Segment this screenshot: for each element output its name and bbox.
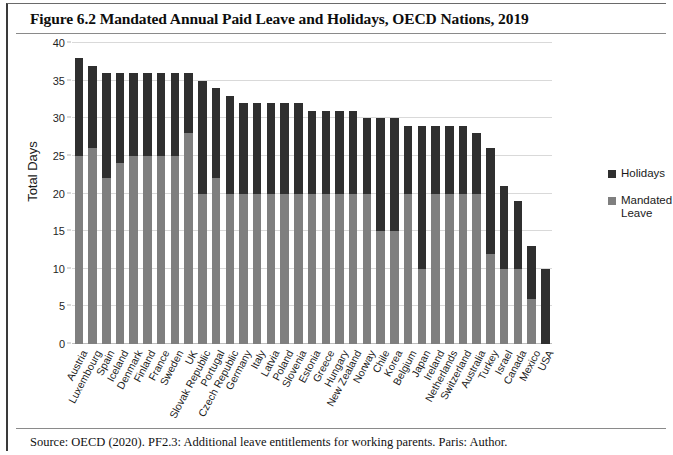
bar-segment-mandated-leave[interactable] <box>129 156 138 344</box>
bar-segment-mandated-leave[interactable] <box>445 194 454 344</box>
bar-segment-mandated-leave[interactable] <box>431 194 440 344</box>
bar-stack[interactable] <box>349 111 358 344</box>
bar-segment-holidays[interactable] <box>472 133 481 193</box>
bar-segment-holidays[interactable] <box>541 269 550 344</box>
legend-item[interactable]: Mandated Leave <box>608 194 673 220</box>
bar-segment-holidays[interactable] <box>116 73 125 163</box>
bar-stack[interactable] <box>157 73 166 344</box>
bar-segment-holidays[interactable] <box>486 148 495 253</box>
bar-segment-holidays[interactable] <box>253 103 262 193</box>
bar-segment-mandated-leave[interactable] <box>514 269 523 344</box>
bar-stack[interactable] <box>75 58 84 344</box>
bar-segment-holidays[interactable] <box>376 118 385 231</box>
bar-segment-mandated-leave[interactable] <box>363 194 372 344</box>
bar-segment-mandated-leave[interactable] <box>335 194 344 344</box>
bar-stack[interactable] <box>267 103 276 344</box>
bar-segment-mandated-leave[interactable] <box>157 156 166 344</box>
bar-stack[interactable] <box>184 73 193 344</box>
bar-stack[interactable] <box>431 126 440 344</box>
bar-stack[interactable] <box>472 133 481 344</box>
bar-segment-mandated-leave[interactable] <box>500 269 509 344</box>
bar-stack[interactable] <box>239 103 248 344</box>
bar-segment-holidays[interactable] <box>322 111 331 194</box>
bar-segment-mandated-leave[interactable] <box>198 194 207 345</box>
bar-segment-holidays[interactable] <box>102 73 111 178</box>
bar-segment-holidays[interactable] <box>390 118 399 231</box>
bar-segment-mandated-leave[interactable] <box>239 194 248 344</box>
bar-segment-holidays[interactable] <box>294 103 303 193</box>
bar-segment-mandated-leave[interactable] <box>143 156 152 344</box>
bar-segment-holidays[interactable] <box>459 126 468 194</box>
bar-segment-holidays[interactable] <box>363 118 372 193</box>
bar-stack[interactable] <box>226 96 235 344</box>
bar-stack[interactable] <box>527 246 536 344</box>
bar-segment-holidays[interactable] <box>431 126 440 194</box>
bar-segment-mandated-leave[interactable] <box>75 156 84 344</box>
bar-segment-holidays[interactable] <box>404 126 413 194</box>
bar-segment-holidays[interactable] <box>335 111 344 194</box>
legend-item[interactable]: Holidays <box>608 167 673 180</box>
bar-stack[interactable] <box>143 73 152 344</box>
bar-stack[interactable] <box>514 201 523 344</box>
bar-stack[interactable] <box>116 73 125 344</box>
bar-segment-mandated-leave[interactable] <box>418 269 427 344</box>
bar-stack[interactable] <box>253 103 262 344</box>
bar-segment-mandated-leave[interactable] <box>527 299 536 344</box>
bar-segment-mandated-leave[interactable] <box>171 156 180 344</box>
bar-stack[interactable] <box>102 73 111 344</box>
bar-segment-holidays[interactable] <box>527 246 536 299</box>
bar-segment-holidays[interactable] <box>418 126 427 269</box>
bar-segment-mandated-leave[interactable] <box>308 194 317 344</box>
bar-segment-holidays[interactable] <box>500 186 509 269</box>
bar-segment-mandated-leave[interactable] <box>390 231 399 344</box>
bar-stack[interactable] <box>322 111 331 344</box>
bar-stack[interactable] <box>445 126 454 344</box>
bar-stack[interactable] <box>459 126 468 344</box>
bar-stack[interactable] <box>294 103 303 344</box>
bar-segment-mandated-leave[interactable] <box>294 194 303 344</box>
bar-segment-mandated-leave[interactable] <box>349 194 358 344</box>
bar-segment-mandated-leave[interactable] <box>376 231 385 344</box>
bar-segment-holidays[interactable] <box>280 103 289 193</box>
bar-stack[interactable] <box>404 126 413 344</box>
bar-stack[interactable] <box>212 88 221 344</box>
bar-segment-holidays[interactable] <box>157 73 166 156</box>
bar-segment-holidays[interactable] <box>445 126 454 194</box>
bar-segment-mandated-leave[interactable] <box>184 133 193 344</box>
bar-segment-holidays[interactable] <box>239 103 248 193</box>
bar-segment-holidays[interactable] <box>514 201 523 269</box>
bar-stack[interactable] <box>171 73 180 344</box>
bar-stack[interactable] <box>418 126 427 344</box>
bar-segment-holidays[interactable] <box>212 88 221 178</box>
bar-stack[interactable] <box>541 269 550 344</box>
bar-segment-holidays[interactable] <box>88 66 97 149</box>
bar-segment-holidays[interactable] <box>226 96 235 194</box>
bar-segment-holidays[interactable] <box>129 73 138 156</box>
bar-stack[interactable] <box>280 103 289 344</box>
bar-segment-mandated-leave[interactable] <box>322 194 331 344</box>
bar-stack[interactable] <box>308 111 317 344</box>
bar-segment-mandated-leave[interactable] <box>280 194 289 344</box>
bar-segment-mandated-leave[interactable] <box>486 254 495 344</box>
bar-stack[interactable] <box>335 111 344 344</box>
bar-segment-mandated-leave[interactable] <box>267 194 276 344</box>
bar-stack[interactable] <box>363 118 372 344</box>
bar-segment-holidays[interactable] <box>198 81 207 194</box>
bar-stack[interactable] <box>390 118 399 344</box>
bar-segment-holidays[interactable] <box>349 111 358 194</box>
bar-segment-mandated-leave[interactable] <box>472 194 481 344</box>
bar-segment-holidays[interactable] <box>308 111 317 194</box>
bar-segment-holidays[interactable] <box>75 58 84 156</box>
bar-segment-mandated-leave[interactable] <box>102 178 111 344</box>
bar-stack[interactable] <box>198 81 207 344</box>
bar-segment-holidays[interactable] <box>143 73 152 156</box>
bar-segment-mandated-leave[interactable] <box>88 148 97 344</box>
bar-segment-mandated-leave[interactable] <box>226 194 235 344</box>
bar-segment-mandated-leave[interactable] <box>253 194 262 344</box>
bar-stack[interactable] <box>486 148 495 344</box>
bar-segment-holidays[interactable] <box>171 73 180 156</box>
bar-segment-mandated-leave[interactable] <box>404 194 413 344</box>
bar-stack[interactable] <box>129 73 138 344</box>
bar-segment-mandated-leave[interactable] <box>116 163 125 344</box>
bar-segment-mandated-leave[interactable] <box>459 194 468 344</box>
